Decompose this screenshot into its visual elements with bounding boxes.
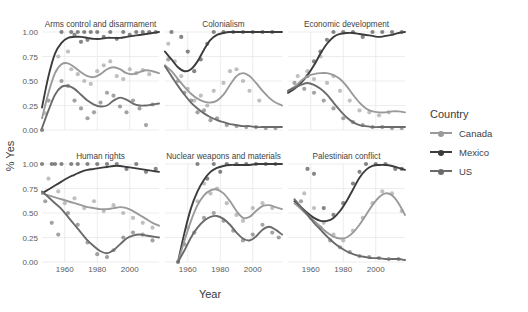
data-point [79, 40, 83, 44]
data-point [59, 79, 63, 83]
data-point [53, 162, 57, 166]
y-axis-title: % Yes [2, 0, 18, 312]
x-axis-tick-label: 2000 [367, 265, 385, 274]
data-point [141, 221, 145, 225]
data-point [212, 89, 216, 93]
data-point [105, 91, 109, 95]
data-point [380, 30, 384, 34]
data-point [302, 191, 306, 195]
data-point [277, 235, 281, 239]
data-point [102, 63, 106, 67]
legend-item-mexico[interactable]: Mexico [430, 146, 526, 158]
x-axis-tick-label: 1980 [211, 265, 229, 274]
data-point [121, 77, 125, 81]
x-axis-tick-label: 1980 [334, 265, 352, 274]
legend-item-canada[interactable]: Canada [430, 127, 526, 139]
data-point [150, 238, 154, 242]
data-point [56, 189, 60, 193]
data-point [82, 30, 86, 34]
legend-key-icon [430, 146, 452, 158]
data-point [212, 30, 216, 34]
data-point [59, 162, 63, 166]
data-point [199, 94, 203, 98]
data-point [95, 162, 99, 166]
data-point [147, 72, 151, 76]
data-point [322, 99, 326, 103]
data-point [134, 30, 138, 34]
legend-item-label: Mexico [459, 147, 489, 158]
data-point [186, 50, 190, 54]
x-axis-tick-label: 1960 [179, 265, 197, 274]
data-point [89, 82, 93, 86]
facet-plot-area [42, 32, 159, 130]
legend-key-icon [430, 127, 452, 139]
data-point [166, 42, 170, 46]
data-point [312, 91, 316, 95]
data-point [118, 104, 122, 108]
data-point [92, 110, 96, 114]
facet-panel-title: Arms control and disarmament [42, 20, 159, 29]
data-point [212, 211, 216, 215]
data-point [131, 216, 135, 220]
data-point [85, 162, 89, 166]
data-point [348, 99, 352, 103]
legend: Country CanadaMexicoUS [430, 108, 526, 184]
data-point [312, 172, 316, 176]
y-axis-tick-label: 0.75 [22, 184, 38, 193]
facet-panel: Arms control and disarmament0.000.250.50… [42, 32, 159, 130]
data-point [66, 50, 70, 54]
data-point [225, 201, 229, 205]
data-point [241, 219, 245, 223]
data-point [43, 199, 47, 203]
data-point [69, 30, 73, 34]
data-point [98, 100, 102, 104]
data-point [331, 106, 335, 110]
data-point [72, 196, 76, 200]
data-point [69, 67, 73, 71]
y-axis-tick-label: 0.25 [22, 233, 38, 242]
data-point [377, 113, 381, 117]
facet-panel-title: Economic development [288, 20, 405, 29]
data-point [144, 123, 148, 127]
data-point [95, 252, 99, 256]
data-point [169, 30, 173, 34]
legend-item-label: Canada [459, 128, 492, 139]
data-point [56, 54, 60, 58]
facet-plot-area [165, 164, 282, 262]
data-point [89, 30, 93, 34]
data-point [40, 162, 44, 166]
data-point [338, 89, 342, 93]
data-point [76, 72, 80, 76]
data-point [312, 77, 316, 81]
legend-item-us[interactable]: US [430, 165, 526, 177]
data-point [228, 69, 232, 73]
data-point [95, 69, 99, 73]
data-point [137, 106, 141, 110]
data-point [357, 170, 361, 174]
data-point [79, 106, 83, 110]
data-point [134, 162, 138, 166]
data-point [305, 167, 309, 171]
data-point [115, 74, 119, 78]
legend-key-icon [430, 165, 452, 177]
data-point [221, 81, 225, 85]
data-point [251, 206, 255, 210]
y-axis-tick-label: 0.50 [22, 77, 38, 86]
data-point [234, 67, 238, 71]
data-point [59, 30, 63, 34]
data-point [63, 201, 67, 205]
x-axis-tick-label: 2000 [244, 265, 262, 274]
data-point [95, 30, 99, 34]
data-point [111, 203, 115, 207]
x-axis-tick-label: 1960 [302, 265, 320, 274]
y-axis-tick-label: 1.00 [22, 160, 38, 169]
x-axis-tick-label: 1960 [56, 265, 74, 274]
y-axis-tick-label: 0.00 [22, 126, 38, 135]
facet-panel: Economic development [288, 32, 405, 130]
facet-panel-title: Colonialism [165, 20, 282, 29]
data-point [364, 162, 368, 166]
x-axis-tick-label: 2000 [121, 265, 139, 274]
data-point [76, 30, 80, 34]
facet-panel: Human rights0.000.250.500.751.0019601980… [42, 164, 159, 262]
data-point [218, 170, 222, 174]
